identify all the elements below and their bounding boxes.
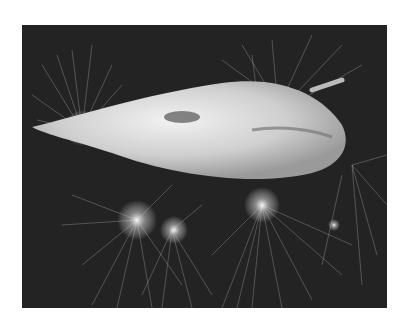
milkweed-photo	[22, 25, 387, 308]
milkweed-illustration	[22, 25, 387, 308]
